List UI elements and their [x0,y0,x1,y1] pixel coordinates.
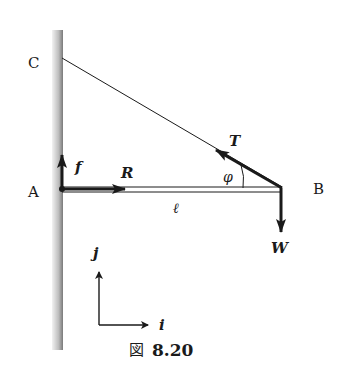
figure-diagram: C A B f R T W φ ℓ j i 図 8.20 [0,0,351,380]
caption-prefix: 図 [129,341,144,359]
label-axis-j: j [90,244,99,262]
label-axis-i: i [159,316,165,334]
label-B: B [313,180,324,198]
pin-A [59,186,65,192]
angle-arc [241,165,244,188]
label-A: A [27,183,39,201]
label-force-R: R [120,164,133,182]
label-force-W: W [271,239,290,257]
label-length-ell: ℓ [173,200,179,216]
label-C: C [28,54,39,72]
figure-caption: 図 8.20 [129,340,194,360]
label-force-f: f [74,158,84,176]
label-angle-phi: φ [223,169,233,185]
label-force-T: T [229,132,242,150]
coordinate-axes: j i [90,244,165,334]
caption-number: 8.20 [152,340,194,360]
